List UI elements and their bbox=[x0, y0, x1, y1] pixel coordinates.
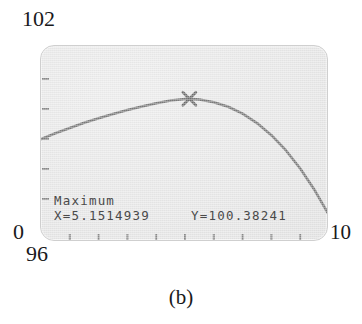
y-axis-max-label: 102 bbox=[22, 8, 55, 30]
figure-caption: (b) bbox=[0, 285, 362, 310]
y-axis-min-label: 96 bbox=[26, 243, 48, 265]
calculator-screen[interactable]: Maximum X=5.1514939 Y=100.38241 bbox=[40, 45, 328, 241]
readout-title: Maximum bbox=[54, 194, 115, 208]
x-axis-ticks bbox=[70, 234, 300, 241]
figure-container: 102 0 96 10 bbox=[0, 0, 362, 324]
x-axis-min-label: 0 bbox=[13, 221, 24, 243]
readout-x-value: X=5.1514939 bbox=[54, 209, 150, 223]
x-axis-max-label: 10 bbox=[330, 222, 351, 243]
readout-y-value: Y=100.38241 bbox=[191, 209, 287, 223]
